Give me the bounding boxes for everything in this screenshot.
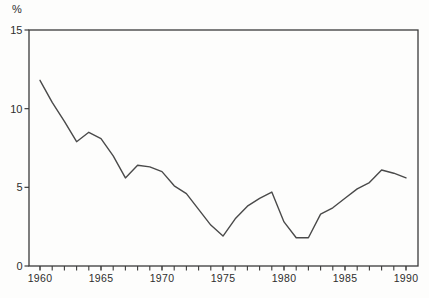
y-tick-label-15: 15 (10, 24, 22, 36)
x-tick-label-1990: 1990 (394, 272, 419, 284)
chart-figure: % 0510151960196519701975198019851990 (0, 0, 429, 298)
y-tick-label-0: 0 (16, 260, 22, 272)
x-tick-label-1960: 1960 (28, 272, 53, 284)
data-series-line (40, 80, 406, 237)
x-tick-label-1970: 1970 (150, 272, 175, 284)
y-axis-unit-label: % (12, 3, 22, 15)
y-tick-label-10: 10 (10, 103, 22, 115)
x-tick-label-1975: 1975 (211, 272, 236, 284)
y-tick-label-5: 5 (16, 181, 22, 193)
chart-canvas: 0510151960196519701975198019851990 (0, 0, 429, 298)
x-tick-label-1980: 1980 (272, 272, 297, 284)
x-tick-label-1965: 1965 (89, 272, 114, 284)
x-tick-label-1985: 1985 (333, 272, 358, 284)
plot-frame (29, 30, 418, 266)
